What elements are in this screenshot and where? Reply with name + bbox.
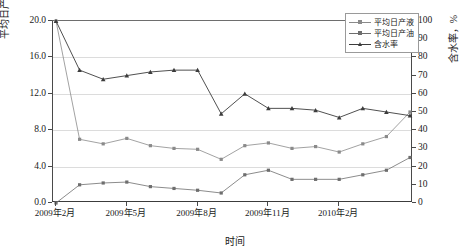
y-axis-right-tick-label: 30 (418, 142, 452, 152)
data-point-marker (220, 191, 223, 194)
y-axis-left-tick-label: 8.0 (6, 124, 46, 134)
x-axis-tick-mark (338, 202, 339, 206)
data-point-marker (267, 169, 270, 172)
y-axis-right-tick-mark (412, 184, 416, 185)
y-axis-right-tick-mark (412, 202, 416, 203)
data-point-marker (125, 180, 128, 183)
x-axis-title: 时间 (0, 233, 469, 248)
y-axis-left-tick-mark (48, 56, 52, 57)
x-axis-tick-label: 2010年2月 (296, 208, 380, 218)
y-axis-right-tick-mark (412, 166, 416, 167)
y-axis-right-tick-mark (412, 147, 416, 148)
legend: 平均日产液平均日产油含水率 (345, 13, 419, 53)
y-axis-right-tick-mark (412, 56, 416, 57)
data-point-marker (243, 144, 246, 147)
data-point-marker (54, 19, 59, 23)
y-axis-left-tick-mark (48, 129, 52, 130)
legend-marker-icon (349, 40, 371, 49)
legend-item-平均日产油[interactable]: 平均日产油 (349, 28, 414, 38)
data-point-marker (338, 150, 341, 153)
data-point-marker (290, 147, 293, 150)
legend-label: 平均日产油 (374, 29, 414, 38)
y-axis-right-tick-label: 10 (418, 179, 452, 189)
data-point-marker (243, 92, 248, 96)
y-axis-left-tick-label: 0.0 (6, 197, 46, 207)
legend-marker-icon (349, 18, 371, 27)
y-axis-left-tick-mark (48, 20, 52, 21)
data-point-marker (361, 142, 364, 145)
y-axis-left-title: 平均日产液（油），t (0, 0, 11, 60)
data-point-marker (149, 185, 152, 188)
data-point-marker (196, 189, 199, 192)
y-axis-right-tick-mark (412, 75, 416, 76)
data-point-marker (385, 135, 388, 138)
data-point-marker (314, 145, 317, 148)
y-axis-left-tick-label: 20.0 (6, 15, 46, 25)
data-point-marker (267, 141, 270, 144)
data-point-marker (243, 173, 246, 176)
x-axis-tick-mark (55, 202, 56, 206)
legend-item-平均日产液[interactable]: 平均日产液 (349, 17, 414, 27)
y-axis-right-tick-mark (412, 93, 416, 94)
data-point-marker (220, 158, 223, 161)
y-axis-left-tick-label: 4.0 (6, 161, 46, 171)
legend-label: 含水率 (374, 40, 398, 49)
data-point-marker (361, 173, 364, 176)
y-axis-left-tick-mark (48, 202, 52, 203)
data-point-marker (125, 137, 128, 140)
y-axis-right-title: 含水率，% (445, 0, 460, 84)
data-point-marker (102, 181, 105, 184)
data-point-marker (78, 138, 81, 141)
y-axis-right-tick-label: 20 (418, 161, 452, 171)
legend-marker-icon (349, 29, 371, 38)
data-point-marker (172, 187, 175, 190)
y-axis-left-tick-mark (48, 93, 52, 94)
y-axis-right-tick-mark (412, 111, 416, 112)
y-axis-right-tick-label: 50 (418, 106, 452, 116)
data-point-marker (385, 169, 388, 172)
legend-item-含水率[interactable]: 含水率 (349, 39, 414, 49)
data-point-marker (314, 178, 317, 181)
water-cut-production-chart: 0.04.08.012.016.020.0 010203040506070809… (0, 0, 469, 252)
y-axis-left-tick-label: 12.0 (6, 88, 46, 98)
y-axis-right-tick-mark (412, 129, 416, 130)
y-axis-left-tick-mark (48, 166, 52, 167)
data-point-marker (172, 147, 175, 150)
y-axis-right-tick-label: 40 (418, 124, 452, 134)
legend-label: 平均日产液 (374, 18, 414, 27)
y-axis-right-tick-label: 60 (418, 88, 452, 98)
data-point-marker (290, 178, 293, 181)
data-point-marker (149, 144, 152, 147)
y-axis-left-tick-label: 16.0 (6, 51, 46, 61)
data-point-marker (338, 178, 341, 181)
series-line (56, 158, 410, 204)
x-axis-tick-mark (267, 202, 268, 206)
data-point-marker (408, 156, 411, 159)
y-axis-right-tick-label: 0 (418, 197, 452, 207)
data-point-marker (77, 68, 82, 72)
data-point-marker (78, 183, 81, 186)
x-axis-tick-mark (126, 202, 127, 206)
x-axis-tick-mark (197, 202, 198, 206)
series-平均日产油 (54, 156, 411, 205)
data-point-marker (196, 148, 199, 151)
data-point-marker (102, 142, 105, 145)
